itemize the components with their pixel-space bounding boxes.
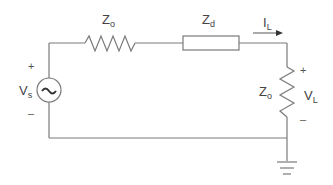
label-zo-top: Zo (102, 13, 115, 26)
label-subscript: o (110, 19, 115, 29)
label-subscript: L (313, 95, 318, 105)
label-subscript: o (267, 91, 272, 101)
resistor-zo-top-icon (85, 36, 135, 51)
impedance-zd-box (183, 36, 239, 50)
label-main: Z (259, 84, 267, 99)
label-subscript: s (28, 90, 33, 100)
label-zd: Zd (202, 13, 215, 26)
label-vl: VL (304, 89, 318, 102)
label-main: V (304, 88, 313, 103)
label-subscript: d (210, 19, 215, 29)
source-plus-sign: + (28, 61, 34, 72)
circuit-diagram (0, 0, 333, 185)
label-main: V (19, 83, 28, 98)
label-il: IL (263, 16, 272, 29)
label-vs: Vs (19, 84, 32, 97)
label-zo-load: Zo (259, 85, 272, 98)
label-main: Z (102, 12, 110, 27)
label-subscript: L (267, 22, 272, 32)
label-main: Z (202, 12, 210, 27)
current-arrow-head-icon (276, 30, 283, 36)
resistor-zo-load-icon (280, 67, 294, 117)
load-minus-sign: – (300, 114, 306, 125)
sine-wave-icon (42, 89, 56, 94)
ground-icon (277, 162, 297, 174)
source-minus-sign: – (28, 108, 34, 119)
load-plus-sign: + (300, 65, 306, 76)
